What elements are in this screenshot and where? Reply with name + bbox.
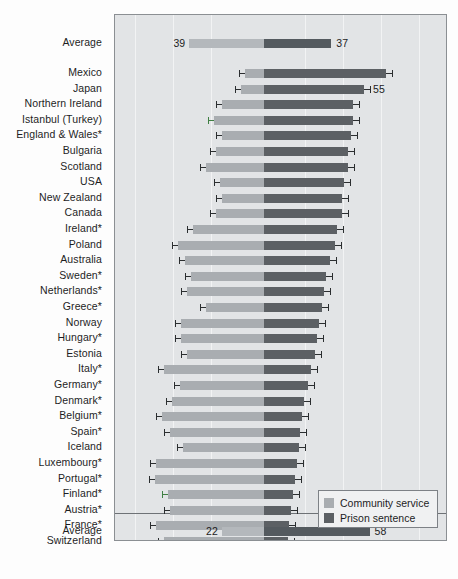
bar-community-service — [222, 194, 264, 203]
category-label: Scotland — [60, 161, 102, 172]
bar-prison-sentence — [264, 100, 353, 109]
bar-community-service — [155, 475, 264, 484]
error-bar-cap-right — [310, 398, 311, 405]
category-label: Istanbul (Turkey) — [22, 114, 102, 125]
category-label: Mexico — [68, 67, 102, 78]
bar-prison-sentence — [264, 334, 317, 343]
bar-row: 55 — [115, 85, 446, 94]
error-bar-cap-right — [328, 304, 329, 311]
bar-community-service — [185, 256, 264, 265]
bar-row — [115, 163, 446, 172]
error-bar-cap-left — [150, 460, 151, 467]
error-bar-cap-right — [301, 476, 302, 483]
legend-label-prison-sentence: Prison sentence — [340, 512, 415, 524]
bar-prison-sentence — [264, 428, 300, 437]
category-label: Estonia — [66, 348, 102, 359]
bar-community-service — [180, 381, 264, 390]
bar-community-service — [216, 147, 264, 156]
bar-prison-sentence — [264, 490, 293, 499]
bar-row — [115, 256, 446, 265]
category-label: New Zealand — [39, 192, 102, 203]
error-bar-cap-right — [297, 507, 298, 514]
bar-community-service — [191, 272, 264, 281]
bar-prison-sentence — [264, 256, 330, 265]
bar-prison-sentence — [264, 178, 344, 187]
chart-root: AverageMexicoJapanNorthern IrelandIstanb… — [0, 0, 458, 579]
error-bar-cap-left — [166, 398, 167, 405]
bar-prison-sentence — [264, 147, 348, 156]
bar-community-service — [206, 303, 264, 312]
category-label: Bulgaria — [63, 145, 102, 156]
plot-area: 3937552258 — [114, 14, 447, 541]
error-bar-cap-left — [239, 70, 240, 77]
bar-row — [115, 116, 446, 125]
bar-community-service — [181, 334, 264, 343]
error-bar-cap-right — [323, 335, 324, 342]
bar-prison-sentence — [264, 506, 291, 515]
bar-prison-sentence — [264, 303, 322, 312]
category-label: Sweden* — [59, 270, 102, 281]
category-label-column: AverageMexicoJapanNorthern IrelandIstanb… — [0, 0, 108, 579]
error-bar-cap-right — [343, 226, 344, 233]
error-bar-cap-left — [164, 507, 165, 514]
bar-community-service — [222, 527, 264, 536]
error-bar-cap-left — [216, 101, 217, 108]
bar-community-service — [206, 163, 264, 172]
error-bar-cap-left — [181, 288, 182, 295]
error-bar-cap-right — [306, 429, 307, 436]
legend-swatch-community-service — [324, 498, 334, 508]
error-bar-cap-right — [294, 538, 295, 541]
bar-community-service — [187, 287, 264, 296]
legend-item-community-service: Community service — [324, 495, 432, 510]
bar-row — [115, 287, 446, 296]
bar-row — [115, 100, 446, 109]
bar-row — [115, 365, 446, 374]
category-label: Canada — [65, 207, 102, 218]
bar-prison-sentence — [264, 241, 335, 250]
error-bar-cap-left — [175, 320, 176, 327]
bar-row — [115, 131, 446, 140]
error-bar-cap-right — [336, 257, 337, 264]
category-label: England & Wales* — [16, 129, 102, 140]
bar-prison-sentence — [264, 537, 288, 541]
category-label: Portugal* — [58, 473, 102, 484]
bar-community-service — [222, 100, 264, 109]
error-bar-cap-right — [332, 273, 333, 280]
bar-community-service — [164, 365, 264, 374]
legend-label-community-service: Community service — [340, 497, 429, 509]
error-bar-cap-right — [321, 351, 322, 358]
bar-community-service — [168, 490, 264, 499]
bar-row — [115, 69, 446, 78]
error-bar-cap-right — [299, 491, 300, 498]
value-label-prison-sentence: 55 — [373, 83, 385, 95]
bar-prison-sentence — [264, 381, 308, 390]
bar-community-service — [216, 209, 264, 218]
error-bar-cap-left — [210, 210, 211, 217]
category-label: Average — [62, 37, 102, 48]
category-label: Australia — [60, 254, 102, 265]
chart-legend: Community service Prison sentence — [318, 490, 438, 528]
error-bar-cap-left — [185, 273, 186, 280]
error-bar-cap-right — [354, 164, 355, 171]
bar-row — [115, 209, 446, 218]
bar-community-service — [172, 397, 264, 406]
error-bar-cap-left — [200, 164, 201, 171]
bar-community-service — [170, 506, 264, 515]
bar-row — [115, 443, 446, 452]
value-label-prison-sentence: 37 — [336, 37, 348, 49]
category-label: Greece* — [63, 301, 102, 312]
error-bar-cap-left — [179, 257, 180, 264]
value-label-community-service: 39 — [165, 37, 185, 49]
error-bar-cap-right — [370, 86, 371, 93]
bar-row — [115, 225, 446, 234]
bar-row — [115, 537, 446, 541]
bar-community-service — [183, 443, 264, 452]
error-bar-cap-left — [177, 444, 178, 451]
legend-item-prison-sentence: Prison sentence — [324, 510, 432, 525]
error-bar-cap-left — [175, 335, 176, 342]
bar-community-service — [222, 131, 264, 140]
error-bar-cap-left — [235, 86, 236, 93]
bar-community-service — [181, 319, 264, 328]
bar-prison-sentence — [264, 350, 315, 359]
category-label: Poland — [69, 239, 102, 250]
